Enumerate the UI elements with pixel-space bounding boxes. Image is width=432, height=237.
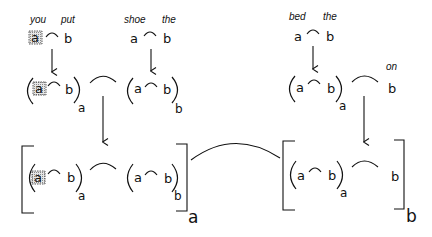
subscript-b: b [175, 102, 183, 116]
left-paren [128, 78, 134, 104]
symbol-b: b [163, 82, 171, 97]
symbol-a: a [31, 30, 39, 45]
concat-arc-icon [144, 32, 156, 36]
concat-arc-icon [90, 163, 116, 170]
symbol-a: a [297, 168, 305, 183]
right-paren [337, 161, 343, 189]
symbol-a: a [296, 80, 304, 95]
symbol-b: b [327, 81, 335, 96]
symbol-a: a [34, 170, 42, 185]
concat-arc-icon [307, 30, 319, 34]
left-square-bracket [283, 141, 295, 210]
right-paren [74, 77, 80, 103]
subscript-a: a [78, 189, 85, 203]
symbol-a: a [134, 81, 142, 96]
concat-arc-icon [352, 161, 378, 167]
right-paren [172, 164, 178, 192]
subscript-a: a [339, 99, 346, 113]
symbol-a: a [130, 31, 138, 46]
left-paren [291, 161, 297, 189]
concat-arc-icon [145, 171, 157, 175]
left-paren [128, 164, 134, 192]
bottom-right-bracket-group: a b a b b [283, 140, 417, 226]
word-shoe: shoe [124, 14, 146, 25]
left-paren [28, 78, 34, 104]
subscript-a: a [340, 186, 347, 200]
middle-middle-chunk: a b b [128, 77, 183, 116]
symbol-b: b [163, 31, 171, 46]
word-the: the [323, 11, 337, 22]
right-paren [76, 164, 82, 192]
middle-left-chunk: a b a [28, 77, 86, 115]
middle-right-chunk: a b a [290, 76, 347, 113]
bottom-left-bracket-group: a b a a b b a [22, 144, 198, 227]
concat-arc-icon [352, 76, 378, 82]
symbol-b: b [64, 31, 72, 46]
symbol-b: b [391, 169, 399, 184]
concat-arc-icon [48, 82, 60, 86]
word-put: put [60, 14, 76, 25]
top-middle-group: shoe the a b [124, 14, 176, 71]
bracket-subscript-b: b [406, 206, 417, 226]
bracket-subscript-a: a [188, 207, 198, 227]
symbol-b: b [164, 171, 172, 186]
symbol-b: b [67, 170, 75, 185]
subscript-b: b [174, 189, 182, 203]
concat-arc-icon [46, 33, 58, 37]
word-bed: bed [289, 11, 306, 22]
chunking-diagram: you put a b shoe the a b bed the a b a b… [0, 0, 432, 237]
concat-arc-icon [309, 168, 321, 172]
right-paren [172, 77, 178, 103]
subscript-a: a [78, 101, 85, 115]
word-you: you [29, 14, 47, 25]
word-the: the [162, 14, 176, 25]
word-on: on [386, 61, 398, 72]
symbol-a: a [35, 81, 43, 96]
concat-arc-icon [145, 83, 157, 87]
concat-arc-icon [308, 80, 320, 84]
symbol-a: a [134, 170, 142, 185]
left-paren [290, 76, 296, 102]
top-left-group: you put a b [29, 14, 76, 72]
symbol-a: a [294, 29, 302, 44]
concat-arc-icon [90, 76, 116, 83]
symbol-b: b [328, 168, 336, 183]
large-concat-arc-icon [191, 143, 280, 160]
symbol-b: b [65, 82, 73, 97]
top-right-group: bed the a b [289, 11, 337, 69]
symbol-b: b [326, 29, 334, 44]
symbol-b: b [388, 81, 396, 96]
concat-arc-icon [48, 170, 60, 174]
